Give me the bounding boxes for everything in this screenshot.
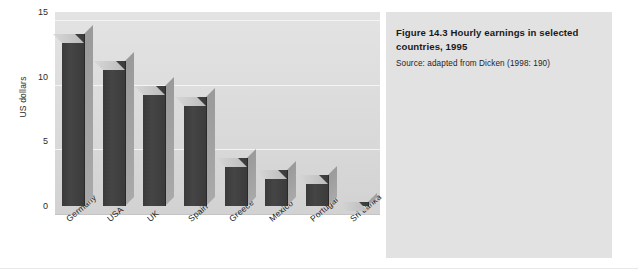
- figure-caption-title: Figure 14.3 Hourly earnings in selected …: [396, 26, 601, 54]
- bar-side-face: [287, 161, 296, 206]
- bottom-divider: [0, 268, 638, 269]
- bar-side-face: [125, 52, 134, 206]
- y-axis-tick-label: 10: [18, 72, 48, 82]
- y-axis-tick-label: 5: [18, 136, 48, 146]
- bar-column[interactable]: [62, 34, 93, 215]
- x-axis-tick-labels: GermanyUSAUKSpainGreeceMexicoPortugalSri…: [55, 216, 395, 271]
- caption-panel: Figure 14.3 Hourly earnings in selected …: [386, 12, 612, 258]
- bar-side-face: [84, 25, 93, 206]
- bar-front-face: [62, 34, 85, 206]
- y-axis-tick-label: 15: [18, 7, 48, 17]
- bars-layer: [55, 12, 380, 215]
- bar-side-face: [206, 88, 215, 206]
- bar-side-face: [165, 77, 174, 206]
- bar-column[interactable]: [103, 61, 134, 215]
- bar-column[interactable]: [143, 86, 174, 215]
- bar-front-face: [103, 61, 126, 206]
- bar-side-face: [247, 149, 256, 206]
- bar-front-face: [143, 86, 166, 206]
- chart-plot-area: [55, 12, 380, 215]
- bar-front-face: [184, 97, 207, 206]
- bar-column[interactable]: [184, 97, 215, 215]
- figure-container: US dollars 051015 GermanyUSAUKSpainGreec…: [0, 0, 638, 273]
- y-axis-tick-label: 0: [18, 201, 48, 211]
- figure-caption-source: Source: adapted from Dicken (1998: 190): [396, 58, 604, 70]
